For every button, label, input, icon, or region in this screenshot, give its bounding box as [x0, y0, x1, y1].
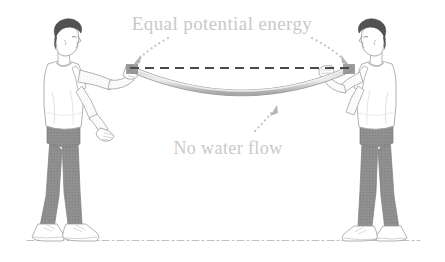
shoe-right-back	[376, 226, 407, 241]
person-right	[319, 19, 407, 241]
shoe-left-front	[63, 224, 99, 241]
shoe-right-front	[342, 226, 377, 241]
top-leader-right	[312, 38, 349, 65]
bottom-label: No water flow	[173, 138, 282, 158]
illustration-canvas: Equal potential energy No water flow	[0, 0, 445, 262]
top-label: Equal potential energy	[132, 13, 313, 34]
hand-left-open	[96, 128, 114, 141]
bottom-leader	[255, 105, 278, 131]
head-right	[358, 19, 385, 56]
person-left	[32, 19, 139, 241]
hydraulic-analogy-figure: Equal potential energy No water flow	[0, 0, 445, 262]
top-leader-left	[133, 38, 168, 65]
head-left	[54, 19, 81, 56]
shoe-left-back	[32, 224, 64, 241]
